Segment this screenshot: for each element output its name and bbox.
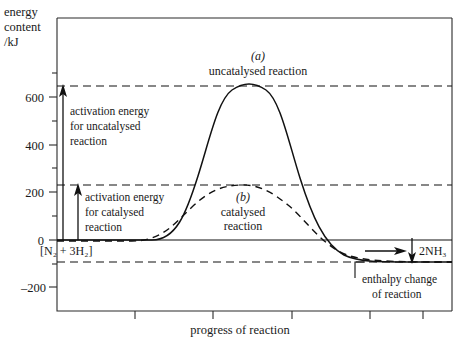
curve-b-name-line1: catalysed — [221, 205, 266, 219]
annot-act-cat-line2: for catalysed — [85, 206, 144, 219]
annotation-activation-energy-uncatalysed: activation energy for uncatalysed reacti… — [70, 105, 150, 147]
annot-act-unc-line3: reaction — [70, 135, 107, 147]
arrow-activation-energy-catalysed — [74, 183, 82, 240]
annot-act-unc-line1: activation energy — [70, 105, 150, 118]
y-tick-label-200: 200 — [25, 186, 44, 200]
annot-act-unc-line2: for uncatalysed — [70, 120, 141, 133]
annotation-enthalpy-change: enthalpy change of reaction — [355, 262, 437, 300]
annotation-activation-energy-catalysed: activation energy for catalysed reaction — [85, 191, 165, 233]
y-tick-label-600: 600 — [25, 91, 44, 105]
curve-label-catalysed: (b) catalysed reaction — [221, 190, 266, 233]
arrow-activation-energy-uncatalysed — [59, 84, 67, 240]
y-axis-title-line2: content — [4, 20, 41, 34]
species-label-products: 2NH₃ — [419, 244, 447, 258]
annot-act-cat-line3: reaction — [85, 221, 122, 233]
energy-profile-diagram: 600 400 200 0 –200 energy content /kJ pr… — [0, 0, 457, 344]
x-axis-title: progress of reaction — [190, 323, 290, 337]
annot-enthalpy-line2: of reaction — [372, 288, 422, 300]
curve-a-tag: (a) — [251, 49, 265, 63]
y-tick-label-neg200: –200 — [20, 281, 46, 295]
x-axis-ticks — [135, 311, 423, 319]
curve-label-uncatalysed: (a) uncatalysed reaction — [209, 49, 307, 78]
curve-a-name: uncatalysed reaction — [209, 64, 307, 78]
y-axis-title-line3: /kJ — [4, 35, 19, 49]
y-axis-title: energy content /kJ — [4, 5, 41, 49]
energy-diagram-svg: 600 400 200 0 –200 energy content /kJ pr… — [0, 0, 457, 344]
curve-b-name-line2: reaction — [224, 219, 263, 233]
species-label-reactants: [N₂ + 3H₂] — [40, 244, 92, 258]
curve-b-tag: (b) — [236, 190, 250, 204]
arrow-enthalpy-change — [365, 238, 416, 264]
y-axis-title-line1: energy — [4, 5, 39, 19]
annot-act-cat-line1: activation energy — [85, 191, 165, 204]
y-tick-label-400: 400 — [25, 139, 44, 153]
annot-enthalpy-line1: enthalpy change — [362, 273, 437, 286]
